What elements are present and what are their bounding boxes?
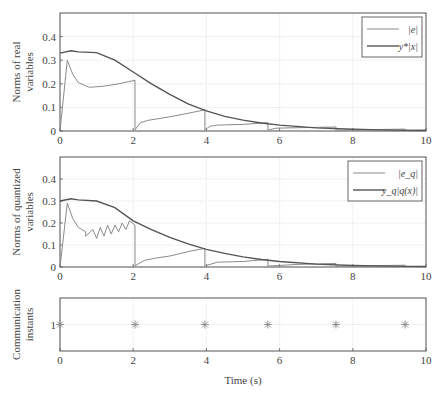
figure: 024681000.10.20.30.4Norms of realvariabl… [0, 0, 447, 398]
real-variables-plot: 024681000.10.20.30.4Norms of realvariabl… [10, 13, 432, 146]
quantized-variables-plot: 024681000.10.20.30.4Norms of quantizedva… [10, 157, 432, 282]
y-tick-label: 0.4 [42, 173, 56, 185]
x-axis-label: Time (s) [224, 374, 262, 387]
y-tick-label: 0 [51, 125, 57, 137]
asterisk-marker [332, 321, 340, 329]
x-tick-label: 2 [130, 134, 136, 146]
x-tick-label: 4 [204, 134, 210, 146]
y-tick-label: 0 [51, 261, 57, 273]
x-tick-label: 10 [421, 354, 433, 366]
legend-entry: |e_q| [398, 168, 418, 179]
y-tick-label: 0.3 [42, 54, 56, 66]
series-line [60, 199, 426, 267]
x-tick-label: 6 [277, 134, 283, 146]
asterisk-marker [401, 321, 409, 329]
legend: |e_q|y_q|q(x)| [348, 161, 422, 201]
legend-entry: |e| [408, 24, 418, 35]
x-tick-label: 8 [350, 354, 356, 366]
communication-instants-plot: 02468101Communicationinstants [10, 289, 432, 366]
x-tick-label: 8 [350, 270, 356, 282]
y-tick-label: 0.4 [42, 31, 56, 43]
x-tick-label: 0 [57, 270, 63, 282]
legend-entry: y*|x| [398, 41, 418, 52]
x-tick-label: 4 [204, 354, 210, 366]
x-tick-label: 10 [421, 134, 433, 146]
y-tick-label: 0.2 [42, 78, 56, 90]
x-tick-label: 0 [57, 354, 63, 366]
x-tick-label: 2 [130, 354, 136, 366]
x-tick-label: 2 [130, 270, 136, 282]
y-tick-label: 0.1 [42, 239, 56, 251]
x-tick-label: 10 [421, 270, 433, 282]
y-tick-label: 0.3 [42, 195, 56, 207]
x-tick-label: 4 [204, 270, 210, 282]
x-tick-label: 8 [350, 134, 356, 146]
y-tick-label: 0.1 [42, 101, 56, 113]
y-tick-label: 0.2 [42, 217, 56, 229]
asterisk-marker [264, 321, 272, 329]
x-tick-label: 6 [277, 270, 283, 282]
series-line [60, 51, 426, 131]
y-axis-label: Norms of realvariables [10, 41, 35, 102]
legend-entry: y_q|q(x)| [381, 185, 418, 197]
asterisk-marker [56, 321, 64, 329]
asterisk-marker [201, 321, 209, 329]
legend: |e|y*|x| [362, 17, 422, 57]
x-tick-label: 6 [277, 354, 283, 366]
y-tick-label: 1 [51, 319, 57, 331]
x-tick-label: 0 [57, 134, 63, 146]
y-axis-label: Communicationinstants [10, 289, 35, 360]
y-axis-label: Norms of quantizedvariables [10, 168, 35, 256]
asterisk-marker [131, 321, 139, 329]
